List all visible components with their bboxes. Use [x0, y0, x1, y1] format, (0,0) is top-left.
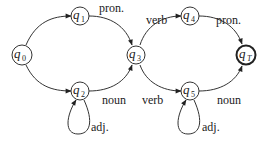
state-q2: q 2	[71, 82, 89, 100]
edge-q2-loop	[68, 100, 90, 134]
edge-label-q2-q3: noun	[102, 93, 126, 107]
edge-q0-q2	[26, 65, 71, 91]
state-q5-sub: 5	[191, 90, 195, 99]
edge-q5-qT	[199, 66, 242, 91]
edge-label-q5-qT: noun	[217, 93, 241, 107]
state-qT-final: q T	[237, 46, 256, 65]
state-q4-base: q	[183, 7, 190, 22]
state-q2-sub: 2	[81, 90, 85, 99]
edge-label-q5-loop: adj.	[202, 120, 220, 134]
edge-label-q1-q3: pron.	[99, 1, 124, 15]
state-q1: q 1	[71, 7, 89, 25]
state-qT-sub: T	[247, 54, 252, 63]
state-q0-sub: 0	[22, 54, 26, 63]
state-q3-sub: 3	[137, 54, 141, 63]
edge-label-q4-qT: pron.	[216, 13, 241, 27]
edge-label-q3-q5: verb	[142, 93, 163, 107]
state-q5-base: q	[183, 82, 190, 97]
edge-label-q2-loop: adj.	[91, 120, 109, 134]
automaton-diagram: pron. noun adj. verb verb pron. noun adj…	[0, 0, 270, 147]
state-q1-base: q	[73, 7, 80, 22]
state-q2-base: q	[73, 82, 80, 97]
state-q3: q 3	[127, 46, 145, 64]
state-q3-base: q	[129, 46, 136, 61]
edges	[26, 16, 242, 134]
state-q1-sub: 1	[81, 15, 85, 24]
edge-q0-q1	[26, 16, 71, 45]
edge-q5-loop	[178, 100, 200, 134]
state-q5: q 5	[181, 82, 199, 100]
edge-q1-q3	[89, 16, 132, 45]
state-q4: q 4	[181, 7, 199, 25]
edge-q2-q3	[89, 65, 132, 91]
edge-q3-q5	[140, 65, 181, 91]
state-qT-base: q	[239, 46, 246, 61]
state-q4-sub: 4	[191, 15, 195, 24]
state-q0: q 0	[12, 45, 32, 65]
edge-label-q3-q4: verb	[146, 13, 167, 27]
edge-labels: pron. noun adj. verb verb pron. noun adj…	[91, 1, 241, 134]
state-q0-base: q	[14, 46, 21, 61]
